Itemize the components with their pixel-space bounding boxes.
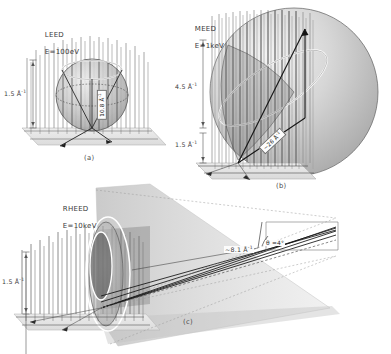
dim-arrow-b3 [201, 157, 205, 161]
energy-rheed: E=10keV [63, 222, 97, 230]
dim-exp-meed-upper: -1 [192, 82, 197, 87]
panel-leed-header: LEED E=100eV [30, 23, 79, 64]
technique-name-rheed: RHEED [63, 205, 89, 213]
panel-meed-header: MEED E=1keV [180, 17, 224, 58]
caption-c: (c) [183, 318, 193, 326]
k-value-rheed: ~8.1 Å [225, 246, 248, 253]
panel-leed-graphic [0, 0, 180, 175]
dimension-label-meed-lower: 1.5 Å-1 [175, 141, 197, 148]
base-plane-rheed [14, 314, 160, 330]
panel-meed: MEED E=1keV 4.5 Å-1 1.5 Å-1 ~26 Å-1 (b) [176, 0, 391, 195]
k-vector-label-leed: 10.8 Å-1 [97, 90, 107, 120]
panel-leed: LEED E=100eV 1.5 Å-1 10.8 Å-1 (a) [0, 0, 180, 175]
dimension-bars-meed [200, 40, 207, 163]
k-vector-label-rheed: ~8.1 Å-1 [224, 246, 254, 253]
ewald-inner-ellipse [90, 232, 112, 300]
dim-value-leed: 1.5 Å [4, 90, 21, 97]
technique-name-leed: LEED [45, 31, 64, 39]
k-exp-meed: -1 [274, 130, 281, 137]
dim-arrow-c-up [24, 254, 28, 258]
dim-arrow-c-down [24, 308, 28, 312]
angle-label-rheed: θ =4° [265, 240, 285, 246]
dim-value-rheed: 1.5 Å [2, 278, 19, 285]
panel-rheed-header: RHEED E=10keV [48, 197, 97, 238]
dim-arrow-down [31, 122, 35, 126]
k-value-leed: 10.8 Å [99, 98, 105, 117]
energy-meed: E=1keV [195, 42, 224, 50]
dim-value-meed-upper: 4.5 Å [175, 83, 192, 90]
dim-exp-leed: -1 [21, 89, 26, 94]
dim-exp-meed-lower: -1 [192, 140, 197, 145]
dimension-label-rheed: 1.5 Å-1 [2, 278, 24, 285]
dim-exp-rheed: -1 [19, 277, 24, 282]
technique-name-meed: MEED [195, 25, 216, 33]
energy-leed: E=100eV [45, 48, 80, 56]
dimension-bar [30, 60, 37, 128]
dim-arrow-b2 [201, 122, 205, 126]
dimension-label-leed: 1.5 Å-1 [4, 90, 26, 97]
dim-value-meed-lower: 1.5 Å [175, 141, 192, 148]
k-exp-leed: -1 [97, 93, 102, 97]
dimension-label-meed-upper: 4.5 Å-1 [175, 83, 197, 90]
panel-rheed: RHEED E=10keV 1.5 Å-1 ~8.1 Å-1 θ =4° (c) [0, 178, 391, 354]
k-exp-rheed: -1 [248, 245, 253, 250]
ewald-sphere-figure: LEED E=100eV 1.5 Å-1 10.8 Å-1 (a) [0, 0, 391, 354]
caption-a: (a) [84, 154, 94, 162]
